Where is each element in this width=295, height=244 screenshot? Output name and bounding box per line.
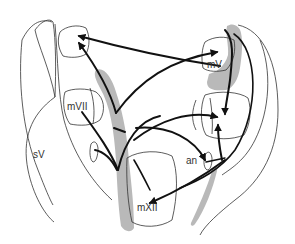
sV-boundary (21, 21, 53, 205)
label-mVII: mVII (67, 102, 88, 112)
mV-shading (207, 24, 242, 90)
projection-arrows (79, 30, 253, 203)
label-mV: mV (207, 60, 222, 70)
arrow-mXII-branch (134, 160, 150, 190)
arrow-up-to-rightmid (218, 125, 222, 160)
label-sV: sV (33, 150, 45, 160)
mXII-outline (127, 152, 177, 227)
left-hemisphere-outline (26, 20, 55, 222)
arrow-right-to-topleft (79, 36, 220, 66)
left-small-oval (90, 142, 98, 162)
shaded-regions (95, 24, 242, 231)
mVII-inner-line (90, 88, 94, 124)
label-an: an (186, 156, 197, 166)
label-mXII: mXII (137, 203, 158, 213)
midline-shading (95, 69, 134, 231)
top-left-nucleus-outline (58, 26, 89, 57)
